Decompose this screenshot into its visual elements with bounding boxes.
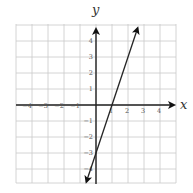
x-axis-label: x	[180, 97, 188, 112]
x-tick-label: 4	[157, 107, 161, 115]
x-tick-label: 2	[125, 107, 129, 115]
y-tick-label: 4	[89, 37, 93, 45]
x-tick-label: 3	[141, 107, 145, 115]
y-tick-label: 3	[89, 53, 93, 61]
y-axis-label: y	[91, 2, 100, 17]
y-tick-label: −3	[83, 149, 93, 157]
x-tick-label: −4	[22, 102, 32, 110]
x-tick-label: −1	[70, 102, 80, 110]
x-tick-label: −3	[38, 102, 48, 110]
y-tick-label: 2	[89, 69, 93, 77]
coordinate-plane: −4−3−2−112344321−1−2−3−4 y x	[0, 0, 193, 193]
y-tick-label: −1	[83, 117, 93, 125]
x-tick-label: −2	[54, 102, 64, 110]
y-tick-label: −2	[83, 133, 93, 141]
y-tick-label: 1	[89, 85, 93, 93]
